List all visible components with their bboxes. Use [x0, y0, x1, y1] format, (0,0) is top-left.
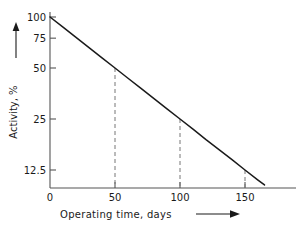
y-axis-label-arrow	[13, 22, 20, 58]
y-axis-label: Activity, %	[5, 62, 21, 162]
y-axis-tick-label: 50	[33, 63, 46, 74]
x-axis-tick-label: 100	[170, 192, 189, 203]
x-axis-tick-label: 0	[47, 192, 53, 203]
y-axis-label-text: Activity, %	[8, 85, 19, 138]
activity-decay-chart: 10075502512.5 050100150 Activity, % Oper…	[0, 0, 306, 231]
y-axis-tick-label: 12.5	[24, 165, 46, 176]
x-axis-label-text: Operating time, days	[60, 209, 172, 220]
y-axis-tick-label: 75	[33, 33, 46, 44]
decay-curve-path	[50, 17, 265, 185]
x-axis-tick-label: 50	[109, 192, 122, 203]
decay-curve-group	[50, 17, 265, 185]
dashed-droplines-group	[115, 68, 245, 188]
y-axis-tick-label: 25	[33, 114, 46, 125]
axes-group	[50, 12, 296, 188]
x-axis-tick-label: 150	[235, 192, 254, 203]
x-axis-label: Operating time, days	[60, 206, 260, 222]
y-axis-tick-label: 100	[27, 12, 46, 23]
y-ticks-group	[50, 17, 56, 170]
